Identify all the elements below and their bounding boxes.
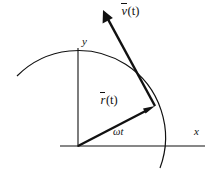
position-vector-argument: (t) bbox=[106, 93, 118, 107]
velocity-vector bbox=[103, 10, 155, 106]
circular-path-arc bbox=[17, 51, 166, 168]
velocity-vector-symbol: v bbox=[121, 5, 128, 18]
velocity-vector-argument: (t) bbox=[128, 4, 140, 18]
position-vector-label: r(t) bbox=[100, 94, 118, 107]
y-axis-label: y bbox=[82, 36, 87, 47]
velocity-vector-label: v(t) bbox=[121, 5, 139, 18]
diagram-canvas bbox=[0, 0, 221, 170]
omega-t-angle-label: ωt bbox=[113, 127, 123, 138]
x-axis-label: x bbox=[194, 126, 199, 137]
vector-diagram-figure: y x ωt r(t) v(t) bbox=[0, 0, 221, 170]
position-vector-symbol: r bbox=[100, 94, 106, 107]
